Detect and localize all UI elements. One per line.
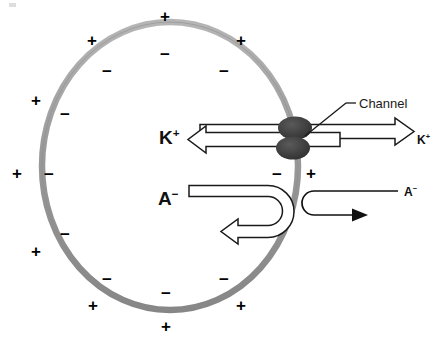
- anion-inside-charge: −: [172, 187, 179, 200]
- charge-plus-outside: +: [236, 32, 246, 49]
- anion-outside-symbol: A: [404, 185, 413, 199]
- potassium-inside-symbol: K: [159, 127, 173, 148]
- charge-minus-inside: −: [219, 63, 229, 80]
- charge-plus-outside: +: [161, 318, 171, 335]
- charge-minus-inside: −: [219, 271, 229, 288]
- channel-label: Channel: [359, 97, 407, 110]
- charge-minus-inside: −: [160, 46, 170, 63]
- potassium-outside-label: K+: [417, 133, 430, 146]
- anion-outside-label: A−: [404, 185, 417, 198]
- charge-plus-outside: +: [88, 297, 98, 314]
- charge-plus-outside: +: [31, 92, 41, 109]
- charge-minus-inside: −: [60, 106, 70, 123]
- cell-membrane-diagram: + + + + + + + + + + − − − − − − − − − − …: [0, 0, 443, 345]
- potassium-outside-charge: +: [426, 132, 430, 141]
- charge-minus-inside: −: [60, 226, 70, 243]
- charge-minus-inside: −: [44, 166, 54, 183]
- potassium-inside-charge: +: [173, 126, 180, 139]
- anion-inside-label: A−: [158, 188, 179, 208]
- charge-minus-inside: −: [102, 271, 112, 288]
- diagram-canvas: [0, 0, 443, 345]
- charge-minus-inside: −: [272, 166, 282, 183]
- charge-plus-outside: +: [306, 165, 316, 182]
- anion-inside-symbol: A: [158, 188, 172, 209]
- potassium-inside-label: K+: [159, 127, 180, 147]
- charge-plus-outside: +: [160, 8, 170, 25]
- charge-plus-outside: +: [236, 297, 246, 314]
- charge-minus-inside: −: [102, 63, 112, 80]
- potassium-outside-symbol: K: [417, 133, 426, 147]
- charge-plus-outside: +: [87, 32, 97, 49]
- anion-outside-charge: −: [413, 184, 417, 193]
- anion-outside-blocked-arrow: [302, 191, 398, 222]
- charge-plus-outside: +: [31, 243, 41, 260]
- charge-minus-inside: −: [161, 285, 171, 302]
- cell-membrane: [42, 22, 298, 310]
- anion-inside-blocked-arrow: [189, 186, 294, 245]
- charge-plus-outside: +: [12, 165, 22, 182]
